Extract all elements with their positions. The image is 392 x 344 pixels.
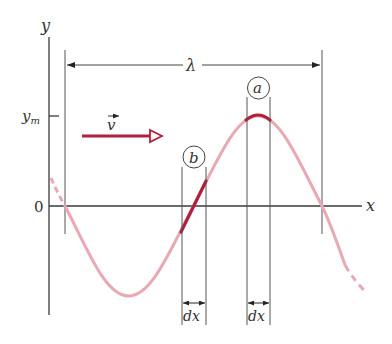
ym-label: ym [21,107,40,126]
dx-b-label: dx [183,308,200,324]
velocity-label: v [107,116,116,134]
marker-a-label: a [253,79,262,97]
dx-a-label: dx [248,308,265,324]
ym-label-subscript: m [30,115,39,126]
origin-label: 0 [34,198,44,216]
wave-dashed-right [345,265,366,292]
y-axis-label: y [40,16,51,35]
wave-dashed-left [51,178,65,206]
x-axis-label: x [366,196,375,215]
velocity-arrow-head [150,130,162,142]
wavelength-label: λ [185,56,196,75]
wave-diagram: λ a b dx dx v y x 0 ym [0,0,392,344]
marker-b-label: b [189,149,199,167]
